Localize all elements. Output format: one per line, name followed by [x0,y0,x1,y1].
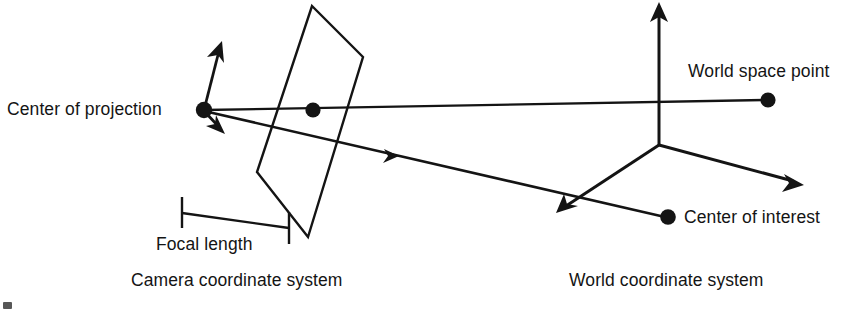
label-world-space-point: World space point [688,63,829,81]
label-focal-length: Focal length [156,236,253,254]
label-camera-coordinate-system: Camera coordinate system [131,272,343,290]
projection-ray-to-world-space-point [204,100,765,110]
label-center-of-interest: Center of interest [684,209,820,227]
diagram-root: Center of projection World space point C… [0,0,857,313]
world-axis-right-arrowhead [782,174,804,192]
scan-artifact-mark [3,302,12,309]
focal-length-span-line [182,213,289,228]
camera-world-coordinate-diagram [0,0,857,313]
center-of-interest-point-marker [660,209,676,225]
image-plane-projected-point [305,102,320,117]
label-world-coordinate-system: World coordinate system [569,272,764,290]
world-axis-right [659,145,793,181]
camera-axis-up [204,51,219,110]
view-direction-ray-to-center-of-interest [204,111,665,217]
view-ray-direction-marker-icon [383,149,399,163]
image-plane-quad [257,6,363,237]
world-space-point-marker [760,92,775,107]
center-of-projection-point [196,102,212,118]
label-center-of-projection: Center of projection [7,101,162,119]
